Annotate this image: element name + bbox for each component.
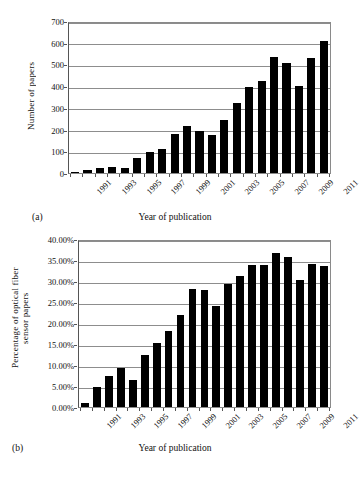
y-axis-tick-label: 100 — [51, 148, 64, 157]
bar — [183, 126, 191, 173]
x-axis-tick-mark — [199, 408, 200, 411]
x-axis-tick-label: 2009 — [318, 412, 336, 430]
x-axis-tick-label: 2001 — [223, 412, 241, 430]
x-axis-tick-mark — [107, 174, 108, 177]
x-axis-tick-label: 2003 — [247, 412, 265, 430]
bar — [158, 149, 166, 173]
y-axis-tick-mark — [64, 22, 67, 23]
bar — [236, 276, 244, 407]
y-axis-tick-mark — [74, 282, 77, 283]
y-axis-tick-mark — [74, 408, 77, 409]
bar — [171, 134, 179, 173]
y-axis-tick-mark — [74, 324, 77, 325]
chart-b-y-axis-title-line1: Percentage of optical fiber — [10, 268, 20, 369]
x-axis-tick-mark — [267, 174, 268, 177]
x-axis-tick-label: 1993 — [120, 178, 138, 196]
x-axis-tick-label: 1997 — [169, 178, 187, 196]
bar — [258, 81, 266, 173]
bar — [245, 87, 253, 173]
chart-b-y-axis-title-line2: sensor papers — [20, 292, 30, 343]
x-axis-tick-mark — [218, 174, 219, 177]
x-axis-tick-mark — [270, 408, 271, 411]
y-axis-tick-mark — [74, 303, 77, 304]
bar — [224, 284, 232, 407]
bar — [141, 355, 149, 407]
bar — [165, 331, 173, 407]
bar — [220, 120, 228, 173]
x-axis-tick-label: 1995 — [144, 178, 162, 196]
x-axis-tick-mark — [193, 174, 194, 177]
x-axis-tick-label: 2007 — [295, 412, 313, 430]
x-axis-tick-mark — [151, 408, 152, 411]
x-axis-tick-mark — [119, 174, 120, 177]
chart-b-bars — [79, 241, 330, 407]
y-axis-tick-label: 10.00% — [48, 362, 74, 371]
y-axis-tick-label: 500 — [51, 61, 64, 70]
x-axis-tick-mark — [317, 408, 318, 411]
y-axis-tick-mark — [74, 261, 77, 262]
x-axis-tick-label: 1991 — [105, 412, 123, 430]
bar — [83, 170, 91, 173]
chart-a-y-axis-ticks: 0100200300400500600700 — [38, 22, 64, 174]
bar — [320, 266, 328, 407]
y-axis-tick-label: 35.00% — [48, 257, 74, 266]
x-axis-tick-mark — [206, 174, 207, 177]
bar — [208, 135, 216, 173]
x-axis-tick-label: 1995 — [152, 412, 170, 430]
x-axis-tick-mark — [222, 408, 223, 411]
bar — [153, 343, 161, 407]
y-axis-tick-mark — [64, 87, 67, 88]
x-axis-tick-label: 1993 — [129, 412, 147, 430]
bar — [121, 168, 129, 173]
bar — [320, 41, 328, 173]
bar — [93, 387, 101, 407]
chart-a-y-axis-title: Number of papers — [26, 36, 38, 156]
x-axis-tick-label: 1997 — [176, 412, 194, 430]
x-axis-tick-mark — [181, 174, 182, 177]
x-axis-tick-mark — [317, 174, 318, 177]
x-axis-tick-label: 1999 — [194, 178, 212, 196]
x-axis-tick-label: 2011 — [342, 178, 360, 196]
bar — [272, 253, 280, 407]
y-axis-tick-mark — [64, 109, 67, 110]
y-axis-tick-label: 200 — [51, 126, 64, 135]
bar — [248, 265, 256, 407]
bar — [233, 103, 241, 173]
x-axis-tick-mark — [95, 174, 96, 177]
y-axis-tick-mark — [64, 152, 67, 153]
x-axis-tick-mark — [169, 174, 170, 177]
bar — [282, 63, 290, 173]
chart-a-plot — [68, 22, 331, 174]
bar — [308, 264, 316, 407]
y-axis-tick-label: 5.00% — [52, 383, 74, 392]
y-axis-tick-label: 0.00% — [52, 404, 74, 413]
chart-a-plot-area — [68, 22, 331, 174]
y-axis-tick-label: 15.00% — [48, 341, 74, 350]
y-axis-tick-mark — [64, 44, 67, 45]
chart-b-x-axis-title: Year of publication — [0, 443, 350, 453]
x-axis-tick-mark — [80, 408, 81, 411]
x-axis-tick-mark — [70, 174, 71, 177]
y-axis-tick-mark — [64, 65, 67, 66]
bar — [146, 152, 154, 173]
y-axis-tick-mark — [64, 174, 67, 175]
figure-panel-a: Number of papers 0100200300400500600700 … — [0, 0, 350, 238]
bar — [195, 131, 203, 173]
x-axis-tick-label: 2007 — [292, 178, 310, 196]
bar — [177, 315, 185, 407]
x-axis-tick-label: 2005 — [268, 178, 286, 196]
x-axis-tick-mark — [246, 408, 247, 411]
x-axis-tick-mark — [175, 408, 176, 411]
x-axis-tick-mark — [92, 408, 93, 411]
y-axis-tick-label: 30.00% — [48, 278, 74, 287]
figure-panel-b: Percentage of optical fiber sensor paper… — [0, 230, 350, 477]
chart-b-y-axis-title: Percentage of optical fiber sensor paper… — [10, 248, 34, 388]
bar — [105, 376, 113, 407]
y-axis-tick-mark — [74, 345, 77, 346]
bar — [307, 58, 315, 173]
y-axis-tick-label: 20.00% — [48, 320, 74, 329]
x-axis-tick-mark — [144, 174, 145, 177]
bar — [284, 257, 292, 407]
chart-b-x-axis-ticks: 1991199319951997199920012003200520072009… — [78, 408, 331, 440]
x-axis-tick-mark — [127, 408, 128, 411]
